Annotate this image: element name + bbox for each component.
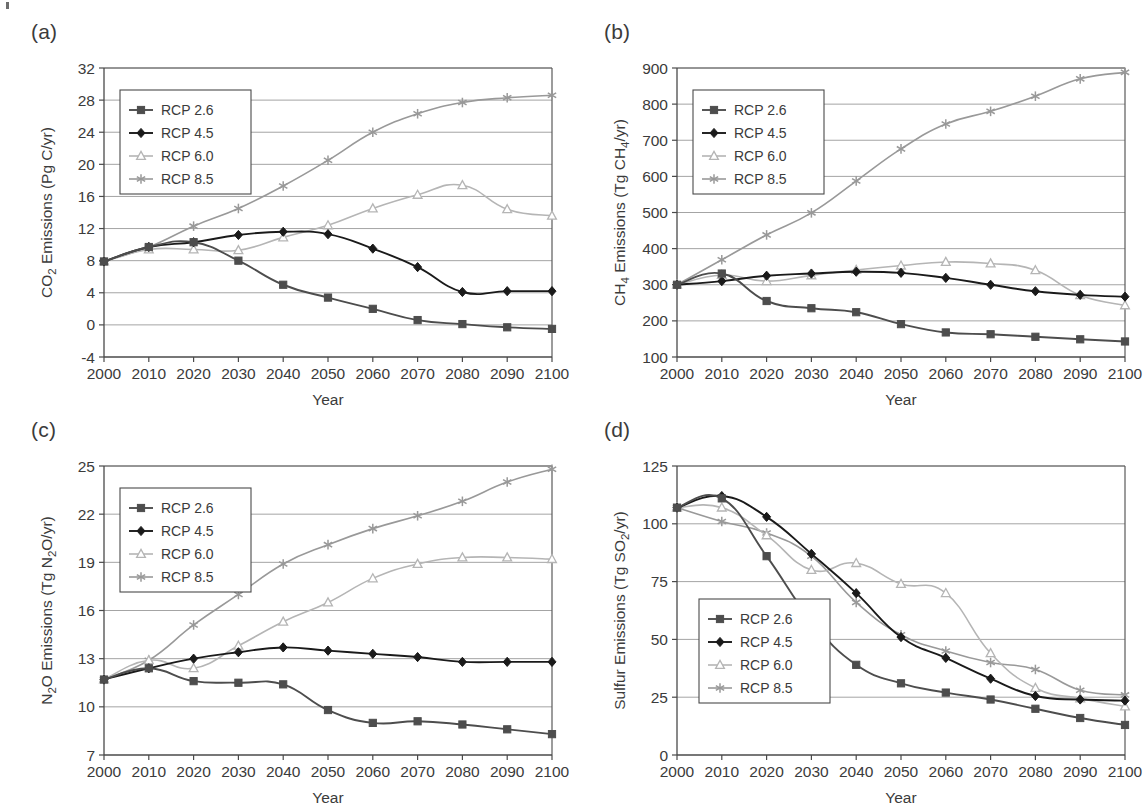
series-line: [104, 241, 552, 329]
data-point-square: [710, 106, 717, 113]
y-tick-label: 800: [642, 96, 668, 113]
data-point-square: [145, 665, 152, 672]
marker-square: [100, 676, 107, 683]
y-tick-label: 500: [642, 204, 668, 221]
data-point-asterisk: [369, 524, 377, 534]
data-point-asterisk: [324, 156, 332, 166]
data-point-diamond: [458, 287, 466, 296]
y-tick-label: 400: [642, 240, 668, 257]
marker-square: [369, 305, 376, 312]
data-point-square: [369, 719, 376, 726]
marker-square: [369, 719, 376, 726]
marker-square: [897, 321, 904, 328]
y-tick-label: 200: [642, 312, 668, 329]
marker-diamond: [1031, 691, 1039, 700]
x-tick-label: 2100: [535, 365, 570, 382]
data-point-asterisk: [986, 107, 994, 117]
text-run: O/yr): [38, 516, 55, 550]
data-point-diamond: [414, 652, 422, 661]
marker-square: [987, 696, 994, 703]
data-point-square: [808, 305, 815, 312]
series-rcp-4-5: [100, 643, 556, 684]
marker-square: [1077, 714, 1084, 721]
marker-square: [1032, 705, 1039, 712]
data-point-diamond: [1076, 695, 1084, 704]
data-point-square: [548, 731, 555, 738]
marker-diamond: [548, 287, 556, 296]
data-point-square: [280, 681, 287, 688]
data-point-diamond: [1121, 292, 1129, 301]
marker-diamond: [324, 646, 332, 655]
marker-square: [763, 297, 770, 304]
data-point-diamond: [763, 271, 771, 280]
x-tick-label: 2080: [1018, 365, 1053, 382]
marker-square: [1032, 333, 1039, 340]
marker-diamond: [987, 280, 995, 289]
legend: RCP 2.6RCP 4.5RCP 6.0RCP 8.5: [699, 599, 830, 703]
y-tick-label: 4: [86, 284, 95, 301]
data-point-square: [1121, 721, 1128, 728]
marker-square: [673, 281, 680, 288]
marker-square: [190, 239, 197, 246]
x-tick-label: 2070: [400, 365, 435, 382]
x-tick-label: 2070: [400, 763, 435, 780]
data-point-square: [897, 321, 904, 328]
data-point-diamond: [987, 280, 995, 289]
y-tick-label: 25: [78, 458, 95, 475]
data-point-diamond: [987, 674, 995, 683]
y-tick-label: 300: [642, 276, 668, 293]
legend: RCP 2.6RCP 4.5RCP 6.0RCP 8.5: [693, 90, 824, 194]
data-point-square: [137, 106, 144, 113]
x-tick-label: 2070: [973, 763, 1008, 780]
legend-label: RCP 6.0: [161, 148, 214, 164]
data-point-diamond: [503, 287, 511, 296]
y-tick-label: 50: [651, 631, 669, 648]
y-tick-label: 100: [642, 515, 668, 532]
x-tick-label: 2040: [266, 365, 301, 382]
x-tick-label: 2010: [132, 365, 167, 382]
x-tick-label: 2080: [445, 365, 480, 382]
marker-diamond: [190, 654, 198, 663]
marker-square: [710, 106, 717, 113]
data-point-asterisk: [279, 559, 287, 569]
data-point-square: [853, 309, 860, 316]
marker-diamond: [942, 273, 950, 282]
axis-title-text: CO2 Emissions (Pg C/yr): [38, 127, 58, 298]
text-run: O Emissions (Tg N: [38, 557, 55, 687]
data-point-asterisk: [234, 204, 242, 214]
data-point-diamond: [369, 649, 377, 658]
data-point-square: [987, 696, 994, 703]
legend-label: RCP 8.5: [161, 569, 214, 585]
data-point-square: [235, 679, 242, 686]
y-tick-label: 19: [78, 554, 95, 571]
data-point-square: [673, 281, 680, 288]
series-rcp-2-6: [100, 239, 555, 333]
data-point-square: [459, 721, 466, 728]
series-line: [104, 668, 552, 734]
x-tick-label: 2090: [1063, 763, 1098, 780]
data-point-diamond: [279, 643, 287, 652]
x-tick-label: 2060: [356, 763, 391, 780]
series-rcp-2-6: [100, 665, 555, 738]
data-point-asterisk: [1031, 665, 1039, 675]
marker-diamond: [852, 267, 860, 276]
y-tick-label: 22: [78, 506, 95, 523]
y-tick-label: 32: [78, 60, 95, 77]
data-point-square: [235, 257, 242, 264]
axis-title-text: Sulfur Emissions (Tg SO2/yr): [611, 511, 631, 709]
text-run: CO: [38, 275, 55, 298]
data-point-asterisk: [1031, 91, 1039, 101]
legend-label: RCP 2.6: [734, 102, 787, 118]
y-tick-label: 0: [86, 316, 95, 333]
text-run: /yr): [611, 511, 628, 533]
data-point-open-triangle: [1031, 683, 1040, 691]
marker-square: [190, 678, 197, 685]
data-point-square: [414, 316, 421, 323]
marker-diamond: [942, 653, 950, 662]
marker-square: [145, 665, 152, 672]
data-point-square: [280, 281, 287, 288]
panel-a: (a) -40481216202428322000201020202030204…: [0, 0, 573, 406]
data-point-square: [324, 294, 331, 301]
x-tick-label: 2090: [1063, 365, 1098, 382]
legend-label: RCP 2.6: [161, 102, 214, 118]
